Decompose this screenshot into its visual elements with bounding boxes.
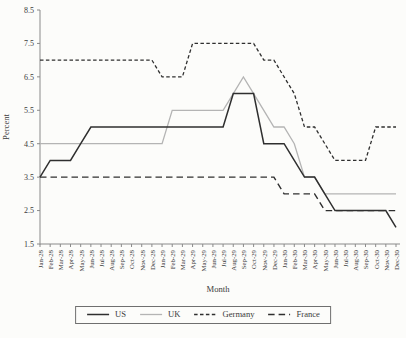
x-tick-label: Dec-28 bbox=[149, 249, 156, 270]
x-tick-label: Dec-30 bbox=[393, 249, 400, 270]
y-tick-label: 4.5 bbox=[24, 140, 34, 149]
uk-line-swatch-icon bbox=[139, 310, 163, 319]
x-tick-label: Oct-28 bbox=[128, 249, 135, 268]
x-tick-label: Jan-28 bbox=[37, 249, 44, 268]
x-tick-label: Aug-29 bbox=[230, 249, 237, 270]
x-tick-label: May-28 bbox=[78, 249, 85, 271]
x-tick-label: Feb-28 bbox=[47, 249, 54, 269]
x-tick-label: Nov-29 bbox=[261, 249, 268, 270]
germany-line-swatch-icon bbox=[194, 310, 218, 319]
france-line-swatch-icon bbox=[268, 310, 292, 319]
legend-item-us: US bbox=[86, 310, 126, 319]
x-tick-label: Aug-30 bbox=[352, 249, 359, 270]
x-tick-label: Jun-29 bbox=[210, 249, 217, 268]
x-tick-label: Nov-30 bbox=[383, 249, 390, 270]
legend-label-germany: Germany bbox=[223, 310, 255, 319]
legend-item-germany: Germany bbox=[194, 310, 255, 319]
x-tick-label: Sep-28 bbox=[118, 249, 125, 269]
x-tick-label: Mar-29 bbox=[179, 249, 186, 270]
y-tick-label: 1.5 bbox=[24, 240, 34, 249]
x-tick-label: Apr-28 bbox=[67, 249, 74, 269]
x-axis-title: Month bbox=[207, 284, 231, 294]
x-tick-label: Oct-29 bbox=[250, 249, 257, 268]
series-germany-line bbox=[40, 43, 396, 160]
x-tick-label: Sep-30 bbox=[362, 249, 369, 269]
x-tick-label: Sep-29 bbox=[240, 249, 247, 269]
series-uk-line bbox=[40, 77, 396, 194]
x-tick-label: Jan-29 bbox=[159, 249, 166, 268]
plot-area: 1.52.53.54.55.56.57.58.5Jan-28Feb-28Mar-… bbox=[24, 6, 400, 272]
x-tick-label: Nov-28 bbox=[139, 249, 146, 270]
y-tick-label: 2.5 bbox=[24, 206, 34, 215]
x-tick-label: Jun-28 bbox=[88, 249, 95, 268]
y-axis-title: Percent bbox=[1, 114, 11, 140]
x-tick-label: Jul-28 bbox=[98, 249, 105, 267]
legend-label-france: France bbox=[297, 310, 320, 319]
x-tick-label: Feb-30 bbox=[291, 249, 298, 269]
x-tick-label: Jun-30 bbox=[332, 249, 339, 268]
legend: US UK Germany France bbox=[75, 306, 331, 324]
x-tick-label: Jan-30 bbox=[281, 249, 288, 268]
x-tick-label: Mar-28 bbox=[57, 249, 64, 270]
x-tick-label: Dec-29 bbox=[271, 249, 278, 270]
y-tick-label: 7.5 bbox=[24, 39, 34, 48]
x-tick-label: Feb-29 bbox=[169, 249, 176, 269]
x-tick-label: Aug-28 bbox=[108, 249, 115, 270]
rate-chart: Percent Month 1.52.53.54.55.56.57.58.5Ja… bbox=[0, 0, 406, 302]
x-tick-label: May-30 bbox=[322, 249, 329, 271]
x-tick-label: Jul-30 bbox=[342, 249, 349, 267]
legend-label-uk: UK bbox=[168, 310, 180, 319]
x-tick-label: May-29 bbox=[200, 249, 207, 271]
legend-item-france: France bbox=[268, 310, 320, 319]
y-tick-label: 5.5 bbox=[24, 106, 34, 115]
x-tick-label: Apr-30 bbox=[311, 249, 318, 269]
us-line-swatch-icon bbox=[86, 310, 110, 319]
x-tick-label: Mar-30 bbox=[301, 249, 308, 270]
y-tick-label: 8.5 bbox=[24, 6, 34, 15]
y-tick-label: 6.5 bbox=[24, 73, 34, 82]
legend-label-us: US bbox=[115, 310, 126, 319]
x-tick-label: Jul-29 bbox=[220, 249, 227, 267]
x-tick-label: Oct-30 bbox=[373, 249, 380, 268]
x-tick-label: Apr-29 bbox=[189, 249, 196, 269]
legend-item-uk: UK bbox=[139, 310, 180, 319]
y-tick-label: 3.5 bbox=[24, 173, 34, 182]
